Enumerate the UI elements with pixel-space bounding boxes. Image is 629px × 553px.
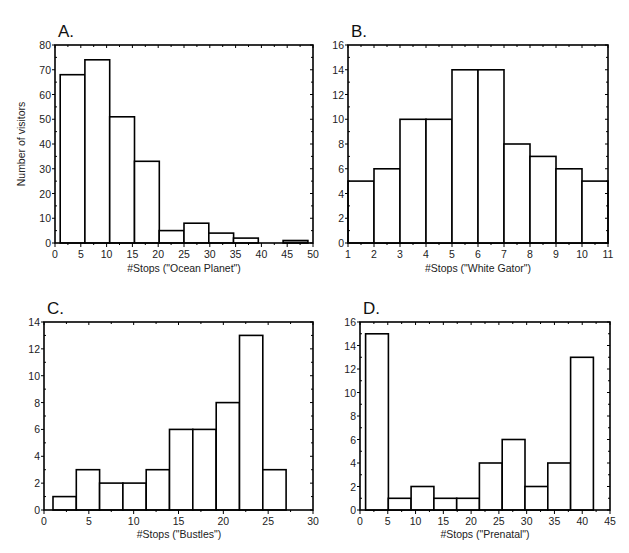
x-tick-label: 35 <box>230 248 242 260</box>
y-tick-label: 2 <box>350 481 356 493</box>
histogram-bar <box>209 233 234 243</box>
x-tick-label: 5 <box>86 515 92 527</box>
panel-c-bustles: C. #Stops ("Bustles") 051015202530024681… <box>28 299 319 540</box>
y-tick-label: 60 <box>39 89 51 101</box>
x-tick-label: 40 <box>256 248 268 260</box>
histogram-bars <box>60 60 308 243</box>
y-tick-label: 8 <box>34 397 40 409</box>
x-tick-label: 25 <box>262 515 274 527</box>
y-tick-label: 8 <box>350 410 356 422</box>
x-axis-label: #Stops ("Bustles") <box>137 528 222 540</box>
x-tick-label: 10 <box>576 248 588 260</box>
x-tick-label: 25 <box>178 248 190 260</box>
x-tick-label: 10 <box>410 515 422 527</box>
histogram-bar <box>348 181 374 243</box>
histogram-bar <box>60 75 85 243</box>
histogram-bar <box>457 498 480 510</box>
histogram-bar <box>53 497 76 510</box>
y-tick-label: 14 <box>28 316 40 328</box>
x-tick-label: 25 <box>493 515 505 527</box>
x-tick-label: 15 <box>437 515 449 527</box>
figure-canvas: Number of visitors A. #Stops ("Ocean Pla… <box>0 0 629 553</box>
x-tick-label: 10 <box>101 248 113 260</box>
histogram-bar <box>110 117 135 243</box>
x-tick-label: 40 <box>576 515 588 527</box>
x-tick-label: 8 <box>527 248 533 260</box>
y-tick-label: 12 <box>332 89 344 101</box>
histogram-bar <box>571 357 594 510</box>
panel-d-prenatal: D. #Stops ("Prenatal") 05101520253035404… <box>344 299 616 540</box>
x-tick-label: 0 <box>52 248 58 260</box>
y-tick-label: 6 <box>350 434 356 446</box>
panel-letter: A. <box>58 22 74 41</box>
y-tick-label: 14 <box>344 340 356 352</box>
histogram-bar <box>582 181 608 243</box>
panel-letter: D. <box>363 299 380 318</box>
x-tick-label: 15 <box>173 515 185 527</box>
histogram-bars <box>366 334 594 510</box>
histogram-bar <box>216 403 239 510</box>
y-tick-label: 6 <box>338 163 344 175</box>
x-tick-label: 20 <box>217 515 229 527</box>
y-tick-label: 12 <box>344 363 356 375</box>
x-tick-label: 30 <box>307 515 319 527</box>
x-tick-label: 1 <box>345 248 351 260</box>
y-tick-label: 12 <box>28 343 40 355</box>
histogram-bar <box>525 487 548 511</box>
y-tick-label: 40 <box>39 138 51 150</box>
histogram-bar <box>263 470 286 510</box>
histogram-bar <box>530 156 556 243</box>
y-tick-label: 2 <box>338 212 344 224</box>
y-tick-label: 10 <box>28 370 40 382</box>
x-tick-label: 5 <box>78 248 84 260</box>
y-tick-label: 14 <box>332 64 344 76</box>
x-tick-label: 0 <box>357 515 363 527</box>
x-tick-label: 30 <box>521 515 533 527</box>
histogram-bar <box>426 119 452 243</box>
panel-b-white-gator: B. #Stops ("White Gator") 12345678910110… <box>332 22 613 274</box>
x-tick-label: 2 <box>371 248 377 260</box>
y-tick-label: 4 <box>338 188 344 200</box>
histogram-bar <box>123 483 146 510</box>
y-axis-label: Number of visitors <box>15 102 27 187</box>
x-tick-label: 45 <box>281 248 293 260</box>
x-tick-label: 20 <box>152 248 164 260</box>
histogram-bar <box>502 440 525 511</box>
x-tick-label: 5 <box>385 515 391 527</box>
y-tick-label: 8 <box>338 138 344 150</box>
histogram-bar <box>434 498 457 510</box>
y-tick-label: 30 <box>39 163 51 175</box>
histogram-bars <box>53 335 286 510</box>
x-tick-label: 20 <box>465 515 477 527</box>
histogram-bar <box>366 334 389 510</box>
histogram-bar <box>85 60 110 243</box>
x-axis-label: #Stops ("White Gator") <box>425 262 531 274</box>
y-tick-label: 2 <box>34 477 40 489</box>
y-tick-label: 16 <box>332 39 344 51</box>
histogram-bar <box>76 470 99 510</box>
panel-letter: C. <box>47 299 64 318</box>
panel-letter: B. <box>351 22 367 41</box>
y-tick-label: 20 <box>39 188 51 200</box>
histogram-bar <box>135 161 160 243</box>
histogram-bar <box>556 169 582 243</box>
x-tick-label: 35 <box>549 515 561 527</box>
histogram-bar <box>240 335 263 510</box>
x-tick-label: 10 <box>128 515 140 527</box>
x-tick-label: 50 <box>307 248 319 260</box>
x-tick-label: 45 <box>604 515 616 527</box>
y-tick-label: 80 <box>39 39 51 51</box>
histogram-bar <box>193 429 216 510</box>
histogram-bar <box>411 487 434 511</box>
y-tick-label: 0 <box>338 237 344 249</box>
x-tick-label: 15 <box>127 248 139 260</box>
x-tick-label: 11 <box>603 248 614 260</box>
histogram-bar <box>184 223 209 243</box>
histogram-bar <box>548 463 571 510</box>
x-tick-label: 7 <box>501 248 507 260</box>
y-tick-label: 16 <box>344 316 356 328</box>
panel-a-ocean-planet: A. #Stops ("Ocean Planet") 0510152025303… <box>39 22 319 274</box>
histogram-bar <box>478 70 504 243</box>
x-tick-label: 5 <box>449 248 455 260</box>
histogram-bar <box>479 463 502 510</box>
